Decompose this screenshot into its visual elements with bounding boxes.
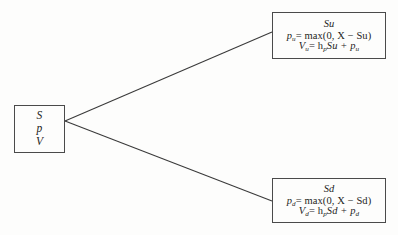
down-node-title: Sd [324,184,335,195]
down-node-formula-v-rhs-pre: = h [309,205,323,216]
up-node: Su pu= max(0, X − Su) Vu= hpSu + pu [272,12,386,59]
up-node-formula-v-rhs-post-sub: u [355,45,359,53]
root-node-line-v: V [36,136,43,148]
down-node: Sd pd= max(0, X − Sd) Vd= hpSd + pd [272,178,386,223]
root-node-line-s: S [37,110,43,122]
edge-up-branch [65,32,272,121]
up-node-formula-v: Vu= hpSu + pu [299,41,359,52]
down-node-formula-v-rhs-post-sub: d [355,210,359,218]
binomial-tree-diagram: S p V Su pu= max(0, X − Su) Vu= hpSu + p… [0,0,398,235]
down-node-formula-p-rhs: = max(0, X − Sd) [296,195,372,206]
root-node-line-p: p [37,123,43,135]
edge-down-branch [65,121,272,201]
down-node-formula-v-rhs-post: Sd + p [327,205,356,216]
up-node-formula-v-rhs-pre: = h [309,40,323,51]
down-node-formula-v: Vd= hpSd + pd [299,206,359,217]
up-node-formula-v-rhs-post: Su + p [327,40,356,51]
up-node-title: Su [324,19,335,30]
up-node-formula-p-rhs: = max(0, X − Su) [296,30,372,41]
root-node: S p V [14,105,65,153]
